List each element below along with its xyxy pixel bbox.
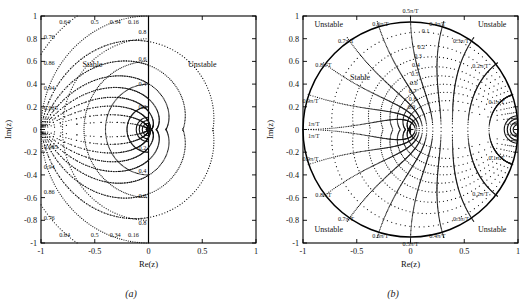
svg-text:0.5: 0.5 [197, 247, 207, 256]
svg-text:0.9: 0.9 [408, 104, 416, 110]
svg-text:0.64: 0.64 [59, 231, 71, 238]
svg-text:Unstable: Unstable [315, 225, 344, 234]
plot-a-canvas: -1-0.500.5110.80.60.40.20-0.2-0.4-0.6-0.… [0, 0, 262, 303]
svg-text:Unstable: Unstable [478, 20, 507, 29]
svg-text:-1: -1 [30, 239, 37, 248]
svg-text:0.8: 0.8 [138, 28, 146, 35]
svg-text:0: 0 [408, 247, 412, 256]
svg-text:0.86: 0.86 [44, 188, 55, 195]
svg-text:0.8: 0.8 [289, 35, 299, 44]
svg-text:1: 1 [254, 247, 258, 256]
svg-text:0: 0 [33, 126, 37, 135]
svg-text:0.6π/T: 0.6π/T [372, 21, 388, 27]
svg-text:0.4π/T: 0.4π/T [429, 21, 445, 27]
svg-text:0.9π/T: 0.9π/T [302, 156, 318, 162]
svg-text:0.9π/T: 0.9π/T [302, 98, 318, 104]
svg-text:Unstable: Unstable [478, 225, 507, 234]
svg-text:1π/T: 1π/T [308, 133, 320, 139]
svg-text:0.3π/T: 0.3π/T [453, 38, 469, 44]
svg-text:0.985: 0.985 [44, 143, 58, 150]
svg-text:0.4π/T: 0.4π/T [429, 233, 445, 239]
svg-text:0.6: 0.6 [410, 80, 418, 86]
svg-text:0.94: 0.94 [44, 163, 56, 170]
svg-text:0.86: 0.86 [44, 59, 55, 66]
svg-text:0.1: 0.1 [422, 28, 430, 34]
svg-text:0.8π/T: 0.8π/T [315, 192, 331, 198]
svg-text:0.16: 0.16 [128, 231, 139, 238]
svg-text:0.4: 0.4 [27, 80, 37, 89]
svg-text:0.64: 0.64 [59, 18, 71, 25]
svg-text:0.5π/T: 0.5π/T [402, 241, 418, 247]
svg-text:0.5: 0.5 [459, 247, 469, 256]
svg-text:0.34: 0.34 [110, 231, 122, 238]
svg-text:0.8π/T: 0.8π/T [315, 62, 331, 68]
svg-text:0.8: 0.8 [409, 96, 417, 102]
svg-text:0.6: 0.6 [138, 192, 146, 199]
svg-text:1π/T: 1π/T [308, 121, 320, 127]
svg-text:0.1π/T: 0.1π/T [488, 99, 504, 105]
svg-text:0.34: 0.34 [110, 18, 122, 25]
svg-text:0.6: 0.6 [138, 55, 146, 62]
svg-text:-0.8: -0.8 [24, 216, 37, 225]
svg-text:0: 0 [295, 126, 299, 135]
svg-text:0.2: 0.2 [289, 103, 299, 112]
svg-text:-0.6: -0.6 [24, 194, 37, 203]
svg-text:0.8: 0.8 [138, 219, 146, 226]
svg-text:0.5: 0.5 [91, 18, 99, 25]
panel-a: -1-0.500.5110.80.60.40.20-0.2-0.4-0.6-0.… [0, 0, 262, 303]
svg-text:0.4: 0.4 [412, 62, 420, 68]
svg-text:0.2π/T: 0.2π/T [472, 191, 488, 197]
svg-text:0.76: 0.76 [44, 33, 55, 40]
svg-text:0.6: 0.6 [289, 57, 299, 66]
svg-text:Unstable: Unstable [315, 20, 344, 29]
svg-text:-1: -1 [38, 247, 45, 256]
svg-text:0.1π/T: 0.1π/T [488, 155, 504, 161]
svg-text:0.2: 0.2 [417, 44, 425, 50]
svg-text:Im(z): Im(z) [3, 120, 13, 139]
svg-text:0.5: 0.5 [411, 71, 419, 77]
svg-text:-0.5: -0.5 [88, 247, 101, 256]
svg-text:0.94: 0.94 [44, 84, 56, 91]
svg-text:Stable: Stable [83, 60, 103, 69]
svg-text:-0.2: -0.2 [286, 148, 299, 157]
svg-text:0.4: 0.4 [289, 80, 299, 89]
svg-text:-0.4: -0.4 [286, 171, 299, 180]
svg-text:1: 1 [295, 12, 299, 21]
svg-text:1: 1 [516, 247, 520, 256]
plot-b-canvas: -1-0.500.5110.80.60.40.20-0.2-0.4-0.6-0.… [262, 0, 524, 303]
svg-text:0.4: 0.4 [138, 167, 147, 174]
svg-text:-0.5: -0.5 [350, 247, 363, 256]
svg-text:0.6: 0.6 [27, 57, 37, 66]
svg-text:-1: -1 [292, 239, 299, 248]
panel-b-caption: (b) [262, 288, 524, 299]
svg-text:0.4: 0.4 [138, 80, 147, 87]
svg-text:Im(z): Im(z) [265, 120, 275, 139]
svg-text:0.7: 0.7 [409, 88, 417, 94]
svg-text:-0.8: -0.8 [286, 216, 299, 225]
svg-text:0.6π/T: 0.6π/T [372, 233, 388, 239]
svg-text:0.2π/T: 0.2π/T [472, 63, 488, 69]
svg-text:-0.2: -0.2 [24, 148, 37, 157]
svg-text:0.3π/T: 0.3π/T [453, 216, 469, 222]
svg-text:-0.6: -0.6 [286, 194, 299, 203]
figure-root: -1-0.500.5110.80.60.40.20-0.2-0.4-0.6-0.… [0, 0, 524, 303]
svg-text:Re(z): Re(z) [139, 259, 158, 269]
svg-text:0.16: 0.16 [128, 18, 139, 25]
svg-text:0: 0 [146, 247, 150, 256]
svg-text:0.2: 0.2 [138, 144, 146, 151]
svg-text:Stable: Stable [350, 73, 370, 82]
svg-text:0.76: 0.76 [44, 214, 55, 221]
panel-b: -1-0.500.5110.80.60.40.20-0.2-0.4-0.6-0.… [262, 0, 524, 303]
svg-text:0.5π/T: 0.5π/T [402, 8, 418, 14]
svg-text:Unstable: Unstable [188, 60, 217, 69]
svg-text:Re(z): Re(z) [401, 259, 420, 269]
svg-text:0.5: 0.5 [91, 231, 99, 238]
svg-text:1: 1 [33, 12, 37, 21]
svg-text:0.985: 0.985 [44, 104, 58, 111]
svg-text:0.2: 0.2 [138, 103, 146, 110]
panel-a-caption: (a) [0, 288, 262, 299]
svg-text:0.3: 0.3 [414, 53, 422, 59]
svg-text:0.7π/T: 0.7π/T [338, 216, 354, 222]
svg-text:0.8: 0.8 [27, 35, 37, 44]
svg-text:0.7π/T: 0.7π/T [338, 38, 354, 44]
